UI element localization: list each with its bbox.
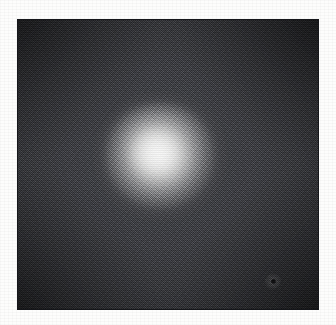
image-plate — [17, 19, 319, 310]
image-plate-inner — [18, 20, 318, 309]
scanned-page — [0, 0, 336, 325]
core-knot — [130, 130, 176, 172]
